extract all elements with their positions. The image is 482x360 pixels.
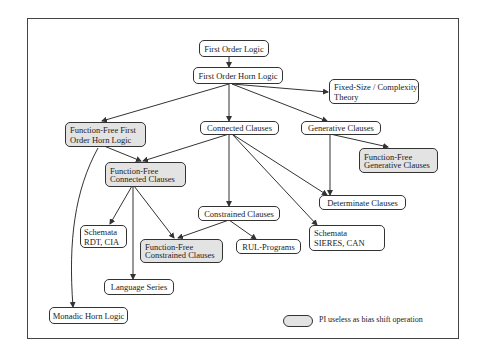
legend-swatch (283, 315, 313, 327)
node-label-line: RDT, CIA (84, 237, 123, 247)
node-label-line: Order Horn Logic (70, 135, 141, 145)
node-label-line: Function-Free First (70, 125, 141, 135)
node-fixed-size-complexity-theory: Fixed-Size / Complexity Theory (329, 79, 419, 104)
node-label: Language Series (111, 282, 167, 292)
node-label-line: Constrained Clauses (145, 251, 218, 259)
node-label: First Order Horn Logic (198, 71, 277, 81)
edge-fohl-gc (232, 84, 327, 121)
node-label-line: Schemata (84, 227, 123, 237)
node-label-line: Fixed-Size / Complexity (334, 82, 414, 92)
edge-cc-dc (232, 134, 327, 195)
node-label-line: Generative Clauses (364, 161, 433, 169)
node-label: Generative Clauses (308, 123, 374, 133)
edge-ffcc-ffconc (134, 186, 174, 238)
legend-label: PI useless as bias shift operation (319, 315, 423, 324)
edge-fohl-fffohl (102, 84, 229, 121)
node-determinate-clauses: Determinate Clauses (319, 195, 406, 210)
node-first-order-logic: First Order Logic (199, 40, 269, 57)
node-generative-clauses: Generative Clauses (301, 121, 381, 135)
node-label: Connected Clauses (207, 123, 272, 133)
node-function-free-first-order-horn-logic: Function-Free First Order Horn Logic (65, 122, 146, 147)
node-monadic-horn-logic: Monadic Horn Logic (49, 307, 128, 324)
node-label: Monadic Horn Logic (53, 311, 125, 321)
node-label: First Order Logic (204, 44, 264, 54)
node-first-order-horn-logic: First Order Horn Logic (193, 67, 283, 84)
node-label: Determinate Clauses (327, 198, 398, 208)
node-connected-clauses: Connected Clauses (200, 121, 279, 135)
edge-cc-ffcc (143, 134, 229, 161)
node-language-series: Language Series (104, 279, 174, 295)
node-function-free-constrained-clauses: Function-Free Constrained Clauses (140, 239, 223, 263)
node-schemata-sieres-can: Schemata SIERES, CAN (309, 225, 385, 251)
edge-fffohl-ffcc (104, 146, 141, 161)
edge-ffcc-srdt (110, 186, 132, 224)
node-label-line: Theory (334, 92, 414, 102)
node-label-line: Schemata (314, 228, 380, 238)
node-label-line: Connected Clauses (110, 175, 181, 183)
node-label: RUL-Programs (242, 242, 294, 252)
node-function-free-generative-clauses: Function-Free Generative Clauses (359, 148, 438, 173)
node-schemata-rdt-cia: Schemata RDT, CIA (80, 225, 127, 248)
node-rul-programs: RUL-Programs (236, 239, 301, 254)
edge-gc-ffgc (330, 134, 388, 147)
edge-conc-rul (229, 220, 256, 239)
node-function-free-connected-clauses: Function-Free Connected Clauses (105, 162, 186, 187)
node-constrained-clauses: Constrained Clauses (198, 206, 280, 221)
node-label: Constrained Clauses (204, 209, 274, 219)
edge-conc-ffconc (178, 220, 229, 238)
edge-fohl-fixed (232, 84, 328, 92)
node-label-line: SIERES, CAN (314, 238, 380, 248)
